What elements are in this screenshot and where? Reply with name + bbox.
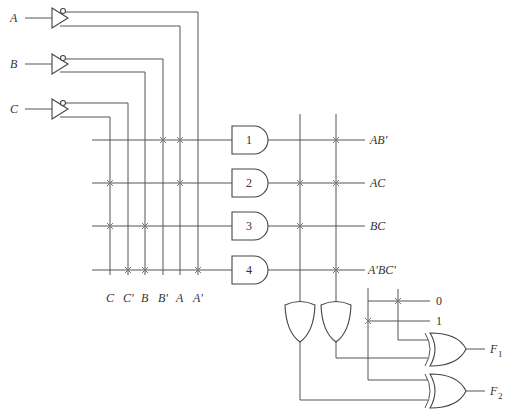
svg-text:1: 1 bbox=[498, 349, 503, 359]
svg-text:B: B bbox=[141, 291, 149, 305]
input-b: B bbox=[10, 54, 163, 275]
input-c: C bbox=[10, 99, 128, 275]
column-labels: C C' B B' A A' bbox=[106, 291, 203, 305]
svg-text:F: F bbox=[489, 384, 498, 398]
svg-text:1: 1 bbox=[246, 133, 252, 147]
svg-text:C: C bbox=[106, 291, 115, 305]
svg-text:AB': AB' bbox=[369, 133, 388, 147]
input-a: A bbox=[9, 8, 198, 275]
svg-text:A: A bbox=[9, 11, 18, 25]
xor-gates: F 1 F 2 bbox=[425, 333, 503, 408]
svg-text:C': C' bbox=[123, 291, 134, 305]
svg-text:AC: AC bbox=[369, 176, 386, 190]
svg-text:F: F bbox=[489, 342, 498, 356]
and-array bbox=[92, 140, 232, 270]
svg-text:C: C bbox=[10, 102, 19, 116]
svg-text:BC: BC bbox=[370, 219, 386, 233]
pla-circuit: A B C C C' B B' A A' 1 bbox=[0, 0, 508, 413]
svg-text:0: 0 bbox=[436, 294, 442, 308]
and-gates: 1 2 3 4 bbox=[232, 126, 268, 284]
svg-text:B': B' bbox=[158, 291, 168, 305]
svg-text:B: B bbox=[10, 57, 18, 71]
svg-text:2: 2 bbox=[498, 391, 503, 401]
svg-text:3: 3 bbox=[246, 219, 252, 233]
pla-diagram: A B C C C' B B' A A' 1 bbox=[0, 0, 508, 413]
svg-text:A': A' bbox=[192, 291, 203, 305]
or-gates bbox=[285, 302, 351, 343]
svg-text:A'BC': A'BC' bbox=[367, 263, 396, 277]
svg-text:1: 1 bbox=[436, 314, 442, 328]
svg-text:A: A bbox=[175, 291, 184, 305]
svg-text:4: 4 bbox=[246, 263, 252, 277]
product-lines: AB' AC BC A'BC' bbox=[268, 133, 396, 277]
svg-text:2: 2 bbox=[246, 176, 252, 190]
